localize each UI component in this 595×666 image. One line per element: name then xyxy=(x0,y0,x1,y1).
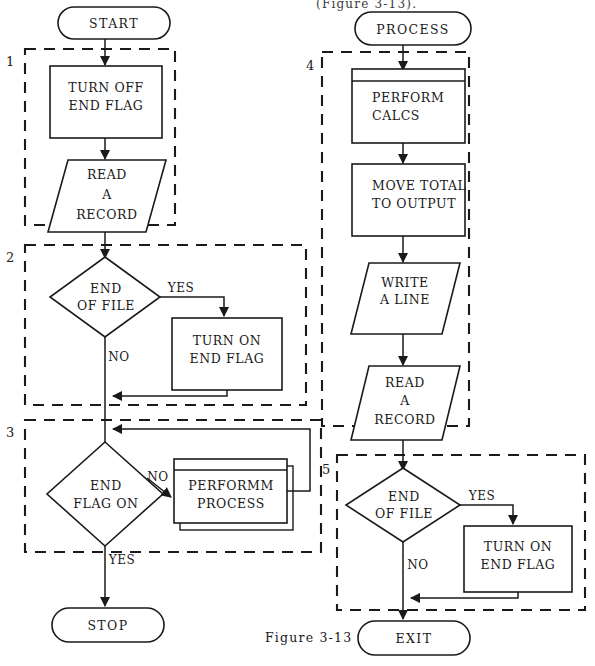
branch-label-eof-no-right: NO xyxy=(407,558,428,572)
decision-end-flag-on: END FLAG ON xyxy=(47,442,163,546)
flowchart-svg: (Figure 3-13). 1 2 3 4 5 START TURN OFF … xyxy=(0,0,595,666)
predefined-process-performm-line1: PERFORMM xyxy=(188,478,274,493)
group-label-2: 2 xyxy=(6,250,14,265)
terminal-process: PROCESS xyxy=(355,12,471,45)
terminal-process-label: PROCESS xyxy=(376,22,449,37)
io-read-a-record-left: READ A RECORD xyxy=(48,160,166,232)
group-label-3: 3 xyxy=(6,425,14,440)
process-turn-on-end-flag-left: TURN ON END FLAG xyxy=(172,318,282,390)
io-read-a-record-left-line1: READ xyxy=(87,167,127,182)
io-write-a-line-line2: A LINE xyxy=(379,292,430,307)
decision-end-flag-on-line2: FLAG ON xyxy=(73,496,138,511)
process-turn-off-end-flag: TURN OFF END FLAG xyxy=(50,66,162,138)
decision-end-of-file-left: END OF FILE xyxy=(50,257,160,337)
decision-end-of-file-right: END OF FILE xyxy=(346,468,460,542)
predefined-process-performm-line2: PROCESS xyxy=(197,496,265,511)
process-move-total-line2: TO OUTPUT xyxy=(372,196,456,211)
io-read-a-record-left-line3: RECORD xyxy=(76,207,137,222)
branch-label-eof-yes-left: YES xyxy=(167,281,194,295)
io-read-a-record-right-line1: READ xyxy=(385,375,425,390)
terminal-start-label: START xyxy=(89,16,139,31)
predefined-process-performm: PERFORMM PROCESS xyxy=(174,459,293,530)
flowchart-canvas: (Figure 3-13). 1 2 3 4 5 START TURN OFF … xyxy=(0,0,595,666)
predefined-process-perform-calcs-line2: CALCS xyxy=(372,108,420,123)
process-turn-on-end-flag-left-line2: END FLAG xyxy=(190,351,265,366)
connector-turnon-merge-right xyxy=(411,592,518,598)
io-write-a-line-line1: WRITE xyxy=(381,275,429,290)
connector-performm-loopback xyxy=(113,429,310,440)
decision-end-of-file-left-line1: END xyxy=(90,281,122,296)
io-read-a-record-right-line3: RECORD xyxy=(374,412,435,427)
io-write-a-line: WRITE A LINE xyxy=(351,263,460,334)
process-turn-off-end-flag-line1: TURN OFF xyxy=(68,80,144,95)
process-turn-on-end-flag-left-line1: TURN ON xyxy=(193,333,262,348)
terminal-stop: STOP xyxy=(52,608,164,642)
terminal-stop-label: STOP xyxy=(87,618,128,633)
io-read-a-record-left-line2: A xyxy=(101,187,112,202)
io-read-a-record-right: READ A RECORD xyxy=(351,366,460,440)
top-figure-note: (Figure 3-13). xyxy=(316,0,417,11)
predefined-process-perform-calcs: PERFORM CALCS xyxy=(352,69,465,143)
branch-label-flag-yes: YES xyxy=(108,553,135,567)
predefined-process-perform-calcs-line1: PERFORM xyxy=(372,90,444,105)
connector-eof-yes-left xyxy=(160,297,224,316)
group-label-4: 4 xyxy=(306,58,314,73)
terminal-exit: EXIT xyxy=(358,621,470,655)
terminal-exit-label: EXIT xyxy=(396,631,433,646)
process-turn-off-end-flag-line2: END FLAG xyxy=(69,98,144,113)
group-label-5: 5 xyxy=(322,462,330,477)
decision-end-of-file-left-line2: OF FILE xyxy=(77,298,135,313)
process-move-total-to-output: MOVE TOTAL TO OUTPUT xyxy=(352,164,467,236)
figure-caption: Figure 3-13 xyxy=(265,630,352,645)
decision-end-of-file-right-line1: END xyxy=(388,489,420,504)
io-read-a-record-right-line2: A xyxy=(399,393,410,408)
terminal-start: START xyxy=(58,7,170,39)
process-turn-on-end-flag-right-line2: END FLAG xyxy=(481,557,556,572)
branch-label-eof-yes-right: YES xyxy=(468,489,495,503)
process-move-total-line1: MOVE TOTAL xyxy=(372,178,467,193)
connector-eof-yes-right xyxy=(460,505,513,524)
decision-end-of-file-right-line2: OF FILE xyxy=(375,506,433,521)
process-turn-on-end-flag-right-line1: TURN ON xyxy=(484,539,553,554)
decision-end-flag-on-line1: END xyxy=(90,478,122,493)
connector-turnon-merge-left xyxy=(113,390,227,396)
process-turn-on-end-flag-right: TURN ON END FLAG xyxy=(464,526,572,592)
branch-label-eof-no-left: NO xyxy=(108,350,129,364)
group-label-1: 1 xyxy=(6,54,14,69)
